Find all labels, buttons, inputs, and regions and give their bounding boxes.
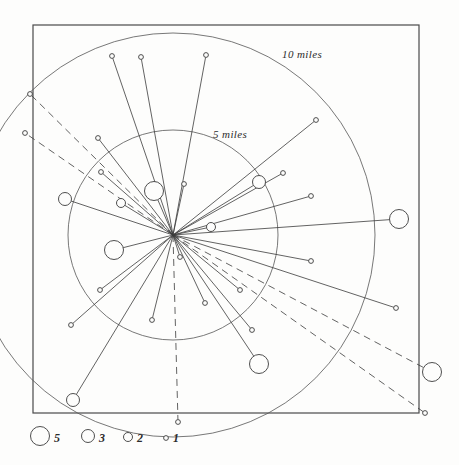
destination-node[interactable]	[110, 54, 115, 59]
ray-line	[173, 235, 309, 261]
destination-node[interactable]	[98, 288, 103, 293]
ray-line	[173, 197, 309, 235]
ray-line	[173, 235, 204, 301]
ray-line	[125, 205, 173, 235]
legend-label-2: 2	[136, 431, 143, 445]
figure-canvas: 5 miles 10 miles 5321	[0, 0, 459, 465]
destination-nodes-group	[23, 53, 442, 425]
destination-node[interactable]	[423, 411, 428, 416]
ray-line	[173, 235, 250, 328]
destination-node[interactable]	[394, 306, 399, 311]
legend-symbol-1	[164, 436, 169, 441]
destination-node[interactable]	[28, 92, 33, 97]
destination-node[interactable]	[139, 55, 144, 60]
ray-line	[158, 200, 173, 235]
ray-line	[173, 235, 254, 356]
destination-node[interactable]	[390, 210, 409, 229]
map-frame	[33, 25, 419, 413]
destination-node[interactable]	[69, 323, 74, 328]
destination-node[interactable]	[67, 394, 80, 407]
destination-node[interactable]	[207, 223, 216, 232]
ring-label-5-miles: 5 miles	[213, 128, 247, 140]
radial-trip-diagram: 5 miles 10 miles 5321	[0, 0, 459, 465]
destination-node[interactable]	[238, 288, 243, 293]
distance-ring-10-miles	[0, 33, 375, 437]
ray-line	[173, 235, 423, 412]
destination-node[interactable]	[423, 363, 442, 382]
distance-rings-group	[0, 33, 375, 437]
legend-symbol-3	[82, 430, 95, 443]
destination-node[interactable]	[281, 171, 286, 176]
destination-node[interactable]	[150, 318, 155, 323]
destination-node[interactable]	[309, 194, 314, 199]
ray-line	[173, 235, 394, 307]
destination-node[interactable]	[253, 176, 266, 189]
destination-node[interactable]	[99, 170, 104, 175]
ring-label-10-miles: 10 miles	[282, 48, 322, 60]
ray-line	[173, 57, 206, 235]
destination-node[interactable]	[117, 199, 126, 208]
legend-symbol-2	[124, 433, 133, 442]
ray-line	[173, 235, 424, 368]
destination-node[interactable]	[96, 136, 101, 141]
ray-line	[173, 220, 390, 235]
legend-label-3: 3	[98, 431, 105, 445]
ray-line	[76, 235, 173, 394]
legend-label-1: 1	[173, 431, 179, 445]
destination-node[interactable]	[178, 255, 183, 260]
destination-node[interactable]	[176, 420, 181, 425]
destination-node[interactable]	[309, 259, 314, 264]
destination-node[interactable]	[105, 241, 124, 260]
destination-node[interactable]	[23, 131, 28, 136]
destination-node[interactable]	[314, 118, 319, 123]
ray-line	[153, 235, 173, 318]
ray-line	[173, 235, 178, 420]
destination-node[interactable]	[145, 182, 164, 201]
destination-node[interactable]	[250, 328, 255, 333]
destination-node[interactable]	[204, 53, 209, 58]
ray-line	[173, 235, 238, 288]
destination-node[interactable]	[59, 193, 72, 206]
ray-lines-group	[27, 57, 424, 419]
legend-symbol-5	[31, 427, 50, 446]
destination-node[interactable]	[203, 301, 208, 306]
destination-node[interactable]	[182, 182, 187, 187]
legend-label-5: 5	[54, 431, 60, 445]
destination-node[interactable]	[250, 355, 269, 374]
